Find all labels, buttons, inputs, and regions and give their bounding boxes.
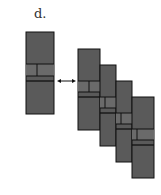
stack-block-4 [132,97,154,178]
arrow-head-left-icon [57,79,61,83]
single-block [26,32,54,114]
block-band [26,64,54,76]
block-band [132,129,154,140]
stack-diagram [0,0,161,195]
stack-block-3 [116,81,132,162]
block-band [100,97,116,108]
arrow-head-right-icon [72,79,76,83]
stack-block-2 [100,65,116,146]
block-band [116,113,132,124]
stack-block-1 [78,49,100,130]
diagram-canvas: d. [0,0,161,195]
